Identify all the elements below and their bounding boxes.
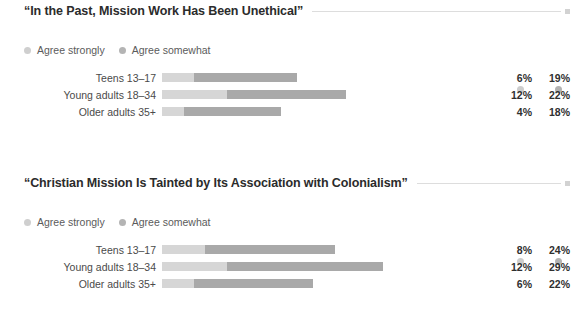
bar-segment-agree-somewhat [205, 245, 335, 254]
value-agree-strongly: 6% [494, 278, 532, 290]
row-label: Young adults 18–34 [0, 261, 162, 273]
legend-label-agree-strongly: Agree strongly [37, 44, 105, 56]
row-values: 4% 18% [494, 106, 580, 118]
value-agree-strongly: 12% [494, 261, 532, 273]
legend-item-agree-somewhat[interactable]: Agree somewhat [119, 216, 211, 228]
chart-2-title: “Christian Mission Is Tainted by Its Ass… [24, 176, 408, 190]
value-agree-somewhat: 18% [532, 106, 570, 118]
chart-1-legend: Agree strongly Agree somewhat [0, 43, 580, 57]
value-agree-somewhat: 19% [532, 72, 570, 84]
legend-item-agree-strongly[interactable]: Agree strongly [24, 216, 105, 228]
value-agree-somewhat: 24% [532, 244, 570, 256]
stacked-bar [162, 107, 281, 116]
stacked-bar [162, 73, 297, 82]
bar-segment-agree-strongly [162, 107, 184, 116]
stacked-bar [162, 279, 313, 288]
value-agree-strongly: 8% [494, 244, 532, 256]
chart-page: “In the Past, Mission Work Has Been Unet… [0, 0, 580, 327]
value-agree-somewhat: 29% [532, 261, 570, 273]
row-label: Older adults 35+ [0, 106, 162, 118]
bar-segment-agree-somewhat [194, 73, 297, 82]
row-bar-track [162, 73, 494, 82]
chart-1-title-row: “In the Past, Mission Work Has Been Unet… [0, 0, 580, 22]
table-row: Teens 13–17 8% 24% [0, 243, 580, 256]
row-bar-track [162, 245, 494, 254]
chart-2-title-row: “Christian Mission Is Tainted by Its Ass… [0, 172, 580, 194]
chart-1-title-end-marker [565, 9, 570, 14]
value-agree-somewhat: 22% [532, 278, 570, 290]
row-values: 6% 19% [494, 72, 580, 84]
stacked-bar [162, 90, 346, 99]
chart-section-2: “Christian Mission Is Tainted by Its Ass… [0, 172, 580, 294]
legend-dot-icon-agree-somewhat [119, 47, 126, 54]
value-agree-strongly: 12% [494, 89, 532, 101]
value-agree-strongly: 6% [494, 72, 532, 84]
row-values: 6% 22% [494, 278, 580, 290]
table-row: Teens 13–17 6% 19% [0, 71, 580, 84]
legend-item-agree-somewhat[interactable]: Agree somewhat [119, 44, 211, 56]
legend-item-agree-strongly[interactable]: Agree strongly [24, 44, 105, 56]
row-label: Teens 13–17 [0, 72, 162, 84]
chart-1-rows: Teens 13–17 6% 19% Young adults 18–34 [0, 71, 580, 118]
row-label: Young adults 18–34 [0, 89, 162, 101]
row-label: Older adults 35+ [0, 278, 162, 290]
row-bar-track [162, 107, 494, 116]
table-row: Young adults 18–34 12% 22% [0, 88, 580, 101]
row-bar-track [162, 262, 494, 271]
row-values: 8% 24% [494, 244, 580, 256]
legend-dot-icon-agree-strongly [24, 47, 31, 54]
bar-segment-agree-strongly [162, 245, 205, 254]
legend-label-agree-strongly: Agree strongly [37, 216, 105, 228]
bar-segment-agree-somewhat [227, 90, 346, 99]
table-row: Older adults 35+ 4% 18% [0, 105, 580, 118]
row-label: Teens 13–17 [0, 244, 162, 256]
legend-dot-icon-agree-somewhat [119, 219, 126, 226]
stacked-bar [162, 262, 383, 271]
row-values: 12% 22% [494, 89, 580, 101]
chart-2-title-rule [417, 183, 561, 184]
chart-section-1: “In the Past, Mission Work Has Been Unet… [0, 0, 580, 122]
legend-dot-icon-agree-strongly [24, 219, 31, 226]
chart-2-rows: Teens 13–17 8% 24% Young adults 18–34 [0, 243, 580, 290]
bar-segment-agree-somewhat [194, 279, 313, 288]
bar-segment-agree-strongly [162, 90, 227, 99]
row-bar-track [162, 279, 494, 288]
chart-2-legend: Agree strongly Agree somewhat [0, 215, 580, 229]
bar-segment-agree-strongly [162, 73, 194, 82]
row-values: 12% 29% [494, 261, 580, 273]
stacked-bar [162, 245, 335, 254]
table-row: Older adults 35+ 6% 22% [0, 277, 580, 290]
bar-segment-agree-somewhat [184, 107, 281, 116]
legend-label-agree-somewhat: Agree somewhat [132, 216, 211, 228]
bar-segment-agree-strongly [162, 279, 194, 288]
row-bar-track [162, 90, 494, 99]
value-agree-somewhat: 22% [532, 89, 570, 101]
bar-segment-agree-strongly [162, 262, 227, 271]
chart-2-title-end-marker [565, 181, 570, 186]
value-agree-strongly: 4% [494, 106, 532, 118]
table-row: Young adults 18–34 12% 29% [0, 260, 580, 273]
chart-1-title: “In the Past, Mission Work Has Been Unet… [24, 4, 303, 18]
chart-1-title-rule [312, 11, 561, 12]
bar-segment-agree-somewhat [227, 262, 384, 271]
legend-label-agree-somewhat: Agree somewhat [132, 44, 211, 56]
